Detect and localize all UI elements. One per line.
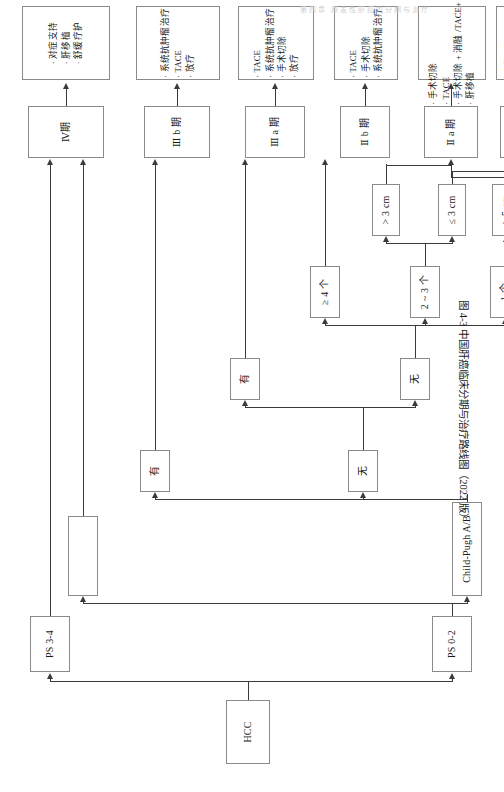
edge-le3-out xyxy=(452,172,453,184)
treatment-item: 系统抗肿瘤治疗 xyxy=(264,8,276,78)
node-vascular-yes: 有 xyxy=(230,358,260,400)
edge-stage3a-tx xyxy=(275,88,276,106)
edge-count-split xyxy=(325,325,504,326)
arrow-meta-yes-stage3b xyxy=(152,159,158,165)
edge-count23-split xyxy=(386,243,452,244)
edge-vasc-split xyxy=(245,407,415,408)
edge-ps02-split xyxy=(83,603,468,604)
node-metastasis-no: 无 xyxy=(348,450,378,492)
edge-gt3-drop xyxy=(386,165,451,166)
treatment-list: TACE手术切除系统抗肿瘤治疗 xyxy=(347,8,384,78)
treatment-item: 手术切除 + 消融 /TACE+ 消融 xyxy=(452,0,464,105)
edge-hcc-trunk xyxy=(248,682,249,700)
treatment-box-stage-iia: 手术切除TACE手术切除 + 消融 /TACE+ 消融肝移植 xyxy=(418,6,486,80)
flowchart-figure: HCC PS 3-4 PS 0-2 Child-Pugh A/B 有 无 有 无… xyxy=(0,0,504,792)
treatment-box-stage-iiib: 系统抗肿瘤治疗TACE放疗 xyxy=(136,6,220,80)
treatment-item: TACE xyxy=(347,8,359,78)
edge-vasc-no-out xyxy=(415,326,416,358)
arrow-to-child-pugh-c xyxy=(80,596,86,602)
arrow-ps34-stage4 xyxy=(47,159,53,165)
arrow-to-ps02 xyxy=(449,673,455,679)
edge-vasc-yes-stage3a xyxy=(245,164,246,358)
node-tumor-count-4plus: ≥ 4 个 xyxy=(310,266,340,318)
edge-stage2a-tx xyxy=(451,88,452,106)
node-stage-iia: Ⅱ a 期 xyxy=(424,106,478,158)
edge-ps02-out xyxy=(452,604,453,616)
node-stage-iib: Ⅱ b 期 xyxy=(340,106,390,158)
treatment-item: 手术切除 xyxy=(360,8,372,78)
edge-meta-yes-stage3b xyxy=(155,164,156,450)
treatment-item: 舒缓疗护 xyxy=(72,22,84,64)
arrow-to-child-pugh-ab xyxy=(464,596,470,602)
arrow-vasc-yes-stage3a xyxy=(242,159,248,165)
node-stage-iiia: Ⅲ a 期 xyxy=(245,106,305,158)
node-stage-iiib: Ⅲ b 期 xyxy=(144,106,210,158)
treatment-box-stage-iib: TACE手术切除系统抗肿瘤治疗 xyxy=(334,6,398,80)
node-ps-0-2: PS 0-2 xyxy=(432,616,472,672)
node-ps-3-4: PS 3-4 xyxy=(30,616,70,672)
treatment-item: 对症支持 xyxy=(47,22,59,64)
treatment-item: TACE xyxy=(172,8,184,78)
arrow-stage3a-tx xyxy=(272,83,278,89)
treatment-item: 手术切除 xyxy=(427,0,439,105)
treatment-box-stage-iv: 对症支持肝移植舒缓疗护 xyxy=(22,6,110,80)
arrow-stage2b-tx xyxy=(362,83,368,89)
node-size-gt-3cm: > 3 cm xyxy=(372,184,400,236)
node-metastasis-yes: 有 xyxy=(140,450,170,492)
arrow-stage2a-tx xyxy=(448,83,454,89)
edge-count4-stage2b xyxy=(325,164,326,266)
edge-stage3b-tx xyxy=(177,88,178,106)
arrow-to-ps34 xyxy=(47,673,53,679)
node-child-pugh-c xyxy=(68,516,98,596)
edge-count23-out xyxy=(425,244,426,266)
edge-stage4-tx xyxy=(66,88,67,106)
arrow-to-meta-yes xyxy=(152,492,158,498)
arrow-to-vasc-yes xyxy=(242,400,248,406)
edge-meta-split xyxy=(155,499,467,500)
arrow-cpc-stage4 xyxy=(80,159,86,165)
treatment-item: 肝移植 xyxy=(60,22,72,64)
treatment-item: 系统抗肿瘤治疗 xyxy=(159,8,171,78)
treatment-box-stage-ib: 手术切除TACE消融 /TACE+ 消融肝移植 xyxy=(496,6,504,80)
page-running-head: 第四章 原发性肝癌的分期与治疗 xyxy=(300,4,430,14)
treatment-item: 放疗 xyxy=(288,8,300,78)
treatment-item: TACE xyxy=(251,8,263,78)
node-stage-ib: Ⅰ b 期 xyxy=(500,106,504,158)
arrow-to-gt3 xyxy=(383,236,389,242)
arrow-to-le3 xyxy=(449,236,455,242)
treatment-list: 系统抗肿瘤治疗TACE放疗 xyxy=(159,8,196,78)
treatment-item: 肝移植 xyxy=(464,0,476,105)
arrow-to-vasc-no xyxy=(412,400,418,406)
figure-caption: 图 4-3 中国肝癌临床分期与治疗路线图（2022 版） xyxy=(457,300,472,523)
edge-le3-drop xyxy=(452,171,504,172)
node-size-gt-5cm: > 5 cm xyxy=(492,184,504,236)
node-tumor-count-1: 1 个 xyxy=(490,266,504,318)
edge-gt5-rise xyxy=(451,177,504,178)
treatment-list: 对症支持肝移植舒缓疗护 xyxy=(47,22,84,64)
edge-cpc-stage4 xyxy=(83,164,84,516)
arrow-to-count-4plus xyxy=(322,318,328,324)
node-size-le-3cm: ≤ 3 cm xyxy=(438,184,466,236)
edge-stage2b-tx xyxy=(365,88,366,106)
node-tumor-count-2-3: 2 ~ 3 个 xyxy=(410,266,440,318)
arrow-stage3b-tx xyxy=(174,83,180,89)
edge-gt3-stage2a xyxy=(386,164,387,184)
treatment-list: TACE系统抗肿瘤治疗手术切除放疗 xyxy=(251,8,301,78)
treatment-list: 手术切除TACE手术切除 + 消融 /TACE+ 消融肝移植 xyxy=(427,0,477,105)
arrow-to-meta-no xyxy=(360,492,366,498)
edge-meta-no-out xyxy=(363,408,364,450)
edge-hcc-split xyxy=(50,681,452,682)
edge-gt5-in xyxy=(451,164,452,178)
treatment-item: 手术切除 xyxy=(276,8,288,78)
node-hcc: HCC xyxy=(226,700,270,764)
arrow-stage4-tx xyxy=(63,83,69,89)
treatment-item: 放疗 xyxy=(184,8,196,78)
node-stage-iv: Ⅳ期 xyxy=(28,106,104,158)
edge-ps34-stage4 xyxy=(50,164,51,616)
node-vascular-no: 无 xyxy=(400,358,430,400)
arrow-count4-stage2b xyxy=(322,159,328,165)
treatment-box-stage-iiia: TACE系统抗肿瘤治疗手术切除放疗 xyxy=(238,6,314,80)
arrow-to-count-2-3 xyxy=(422,318,428,324)
treatment-item: 系统抗肿瘤治疗 xyxy=(372,8,384,78)
